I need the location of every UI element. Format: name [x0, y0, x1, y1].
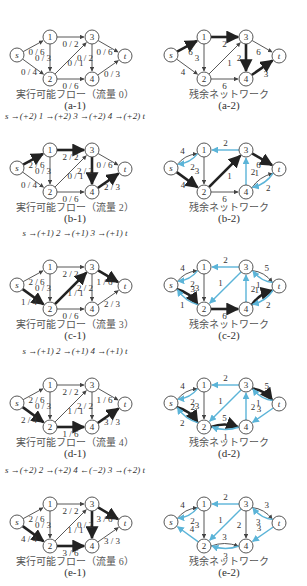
edge-label: 3	[195, 520, 200, 530]
node-t: t	[272, 397, 286, 411]
svg-text:4: 4	[244, 422, 249, 432]
edge-arrow	[212, 546, 239, 549]
node-s: s	[10, 515, 24, 529]
panel-subcaption: (b-1)	[0, 212, 150, 224]
node-t: t	[118, 397, 132, 411]
svg-text:3: 3	[90, 262, 95, 272]
edge-label: 3	[195, 401, 200, 411]
residual-panel: 6423162631234st残余ネットワーク(a-2)	[154, 0, 307, 112]
flow-panel: s →(+2) 1 →(+2) 3 →(+2) 4 →(+2) t2 / 60 …	[0, 113, 154, 225]
panel-subcaption: (d-1)	[0, 447, 150, 459]
node-2: 2	[43, 72, 57, 86]
svg-text:4: 4	[90, 422, 95, 432]
node-2: 2	[197, 72, 211, 86]
node-1: 1	[43, 30, 57, 44]
svg-text:4: 4	[244, 187, 249, 197]
svg-text:1: 1	[202, 380, 207, 390]
node-2: 2	[43, 420, 57, 434]
edge-label: 2	[222, 39, 227, 49]
edge-label: 0 / 6	[97, 160, 114, 170]
edge-label: 3	[265, 500, 270, 510]
edge-arrow	[211, 544, 238, 547]
edge-label: 2 / 2	[77, 166, 93, 176]
svg-text:3: 3	[244, 32, 249, 42]
svg-text:1: 1	[48, 380, 53, 390]
edge-label: 4	[180, 263, 185, 273]
edge-label: 1 / 6	[97, 395, 114, 405]
node-s: s	[10, 161, 24, 175]
flow-panel: s →(+2) 2 →(+2) 4 ←(−2) 3 →(+2) t2 / 64 …	[0, 467, 154, 579]
svg-text:4: 4	[90, 74, 95, 84]
edge-label: 5	[265, 381, 270, 391]
edge-label: 2 / 2	[77, 283, 93, 293]
panel-subcaption: (c-2)	[154, 329, 304, 341]
node-1: 1	[197, 497, 211, 511]
svg-text:s: s	[15, 163, 19, 173]
flow-panel: s →(+1) 2 →(+1) 4 →(+1) t2 / 62 / 42 / 2…	[0, 348, 154, 460]
svg-text:1: 1	[202, 262, 207, 272]
svg-text:3: 3	[90, 380, 95, 390]
node-t: t	[272, 49, 286, 63]
edge-arrow	[209, 156, 240, 187]
flow-panel: 0 / 60 / 40 / 20 / 30 / 10 / 60 / 20 / 6…	[0, 0, 154, 112]
edge-label: 4	[180, 500, 185, 510]
node-t: t	[118, 516, 132, 530]
edge-label: 1	[254, 168, 259, 178]
edge-label: 2	[237, 53, 242, 63]
node-2: 2	[43, 302, 57, 316]
node-t: t	[272, 162, 286, 176]
node-3: 3	[85, 143, 99, 157]
edge-label: 5	[265, 263, 270, 273]
svg-text:2: 2	[202, 74, 207, 84]
edge-label: 1	[218, 278, 223, 288]
svg-text:4: 4	[90, 304, 95, 314]
svg-text:s: s	[15, 517, 19, 527]
svg-text:s: s	[15, 280, 19, 290]
panel-subcaption: (c-1)	[0, 329, 150, 341]
edge-label: 3	[195, 53, 200, 63]
svg-text:s: s	[169, 398, 173, 408]
svg-text:4: 4	[244, 304, 249, 314]
edge-label: 3 / 3	[104, 417, 121, 427]
node-t: t	[118, 162, 132, 176]
edge-label: 0 / 3	[35, 401, 52, 411]
edge-label: 2	[237, 520, 242, 530]
edge-label: 4 / 4	[21, 534, 38, 544]
node-t: t	[118, 279, 132, 293]
edge-arrow	[212, 427, 239, 430]
edge-label: 2 / 2	[62, 269, 78, 279]
svg-text:2: 2	[48, 541, 53, 551]
edge-label: 0 / 2	[62, 39, 78, 49]
svg-text:1: 1	[48, 262, 53, 272]
panel-subcaption: (a-1)	[0, 99, 150, 111]
node-4: 4	[239, 420, 253, 434]
node-t: t	[118, 49, 132, 63]
residual-panel: 424231626121234st残余ネットワーク(b-2)	[154, 113, 307, 225]
residual-panel: 42222315125131234st残余ネットワーク(d-2)	[154, 348, 307, 460]
residual-panel: 4242313323331234st残余ネットワーク(e-2)	[154, 467, 307, 579]
panel-subcaption: (e-2)	[154, 566, 304, 578]
edge-label: 0 / 4	[21, 67, 38, 77]
svg-text:4: 4	[244, 541, 249, 551]
svg-text:3: 3	[244, 380, 249, 390]
node-1: 1	[43, 143, 57, 157]
edge-label: 0 / 6	[97, 47, 114, 57]
svg-text:4: 4	[244, 74, 249, 84]
edge-arrow	[253, 408, 274, 422]
svg-text:3: 3	[244, 499, 249, 509]
node-4: 4	[85, 539, 99, 553]
edge-label: 1	[180, 300, 185, 310]
svg-text:1: 1	[202, 499, 207, 509]
residual-panel: 42312316251121234st残余ネットワーク(c-2)	[154, 230, 307, 342]
svg-text:3: 3	[244, 262, 249, 272]
edge-label: 3	[257, 404, 262, 414]
svg-text:3: 3	[244, 145, 249, 155]
edge-label: 2	[223, 255, 228, 265]
svg-text:2: 2	[202, 422, 207, 432]
edge-label: 3	[264, 69, 269, 79]
edge-label: 0 / 3	[35, 283, 52, 293]
edge-label: 1	[254, 285, 259, 295]
node-3: 3	[239, 30, 253, 44]
svg-text:s: s	[169, 163, 173, 173]
node-3: 3	[85, 260, 99, 274]
